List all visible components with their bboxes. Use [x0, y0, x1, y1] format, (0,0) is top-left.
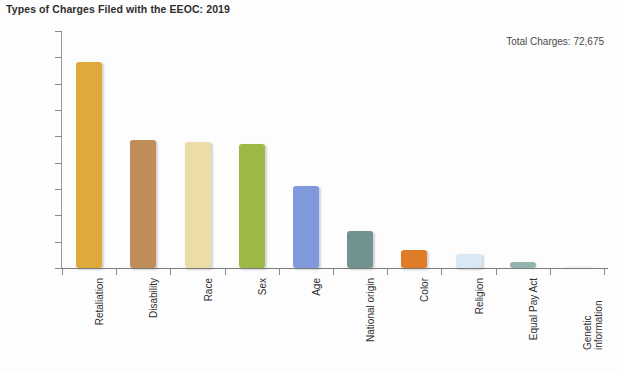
y-axis-tick-mark	[55, 31, 62, 32]
bar[interactable]	[130, 140, 156, 268]
y-axis-tick-mark	[55, 110, 62, 111]
bar[interactable]	[185, 142, 211, 268]
x-axis-category-label: Sex	[257, 278, 268, 295]
x-axis-tick-mark	[225, 269, 226, 275]
x-axis-category-label: Color	[419, 278, 430, 302]
bar[interactable]	[510, 262, 536, 268]
y-axis-tick-mark	[55, 57, 62, 58]
bar[interactable]	[293, 186, 319, 268]
x-axis-tick-mark	[387, 269, 388, 275]
x-axis-category-label: Retaliation	[94, 278, 105, 325]
x-axis-tick-mark	[441, 269, 442, 275]
bar[interactable]	[564, 266, 590, 268]
bar-column[interactable]	[239, 31, 265, 268]
bar-column[interactable]	[130, 31, 156, 268]
bar-column[interactable]	[510, 31, 536, 268]
y-axis-tick-mark	[55, 189, 62, 190]
x-axis-tick-mark	[604, 269, 605, 275]
bar-column[interactable]	[293, 31, 319, 268]
x-axis-category-label: Equal Pay Act	[528, 278, 539, 340]
y-axis-tick: 5,000	[0, 242, 62, 243]
bar[interactable]	[347, 231, 373, 268]
x-axis-category-label: Genetic information	[582, 278, 604, 350]
x-axis-line	[55, 268, 608, 269]
y-axis-tick: 35,000	[0, 84, 62, 85]
x-axis-category-label: Disability	[148, 278, 159, 318]
x-axis-tick-mark	[170, 269, 171, 275]
x-axis-tick-mark	[116, 269, 117, 275]
x-axis-tick-mark	[333, 269, 334, 275]
x-axis-tick-mark	[62, 269, 63, 275]
x-axis-category-label: National origin	[365, 278, 376, 342]
y-axis-tick-mark	[55, 215, 62, 216]
x-axis-category-label: Age	[311, 278, 322, 296]
y-axis-tick: 10,000	[0, 215, 62, 216]
y-axis-tick: 40,000	[0, 57, 62, 58]
bar[interactable]	[76, 62, 102, 268]
y-axis-tick: 0	[0, 268, 62, 269]
x-axis-category-label: Race	[203, 278, 214, 301]
y-axis-tick: 15,000	[0, 189, 62, 190]
bar-column[interactable]	[564, 31, 590, 268]
bar-column[interactable]	[456, 31, 482, 268]
y-axis-tick: 25,000	[0, 136, 62, 137]
bar-column[interactable]	[401, 31, 427, 268]
x-axis-tick-mark	[496, 269, 497, 275]
y-axis-tick-mark	[55, 268, 62, 269]
chart-title: Types of Charges Filed with the EEOC: 20…	[6, 3, 230, 15]
bar[interactable]	[239, 144, 265, 268]
bar-column[interactable]	[76, 31, 102, 268]
bar-column[interactable]	[347, 31, 373, 268]
bar-column[interactable]	[185, 31, 211, 268]
y-axis-tick: 45,000	[0, 31, 62, 32]
bar[interactable]	[401, 250, 427, 268]
x-axis-category-label: Religion	[474, 278, 485, 314]
y-axis-tick-mark	[55, 84, 62, 85]
y-axis-tick: 30,000	[0, 110, 62, 111]
y-axis-tick: 20,000	[0, 163, 62, 164]
bar-chart: Types of Charges Filed with the EEOC: 20…	[0, 0, 622, 371]
y-axis-line	[61, 31, 62, 269]
y-axis-tick-mark	[55, 163, 62, 164]
x-axis-tick-mark	[279, 269, 280, 275]
y-axis-tick-mark	[55, 136, 62, 137]
bar[interactable]	[456, 254, 482, 268]
x-axis-tick-mark	[550, 269, 551, 275]
y-axis-tick-mark	[55, 242, 62, 243]
